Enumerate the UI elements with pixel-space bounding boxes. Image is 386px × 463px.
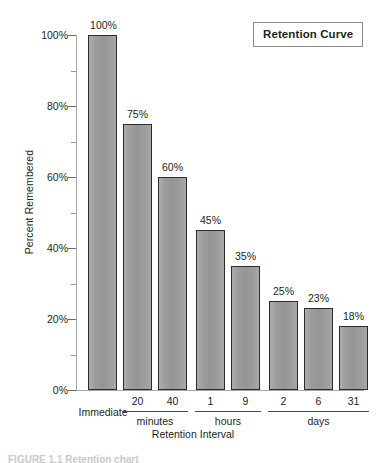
- bar-value-label-immediate: 100%: [74, 20, 133, 31]
- x-axis-line: [76, 390, 364, 391]
- bar-value-label-40-minutes: 60%: [147, 162, 198, 173]
- y-axis-line: [76, 35, 77, 390]
- y-ticklabel-40: 40%: [8, 243, 68, 254]
- bar-31-days: [339, 326, 368, 390]
- y-tick-80: [68, 106, 76, 107]
- bar-2-days: [269, 301, 298, 390]
- y-tick-40: [68, 248, 76, 249]
- bar-value-label-9-hours: 35%: [220, 251, 271, 262]
- chart-title-box: Retention Curve: [253, 22, 363, 47]
- bar-value-label-1-hour: 45%: [185, 215, 236, 226]
- y-minor-tick-50: [71, 213, 76, 214]
- group-label-minutes: minutes: [122, 416, 188, 427]
- bar-9-hours: [231, 266, 260, 390]
- y-minor-tick-10: [71, 355, 76, 356]
- y-ticklabel-60: 60%: [8, 172, 68, 183]
- bar-value-label-31-days: 18%: [328, 311, 379, 322]
- y-tick-20: [68, 319, 76, 320]
- bar-value-label-20-minutes: 75%: [112, 109, 163, 120]
- x-ticklabel-40: 40: [151, 396, 194, 407]
- y-ticklabel-100: 100%: [8, 30, 68, 41]
- y-ticklabel-0: 0%: [8, 385, 68, 396]
- y-tick-100: [68, 35, 76, 36]
- group-rule-minutes: [122, 411, 188, 412]
- group-rule-days: [268, 411, 369, 412]
- bar-value-label-6-days: 23%: [293, 293, 344, 304]
- y-minor-tick-70: [71, 142, 76, 143]
- y-ticklabel-20: 20%: [8, 314, 68, 325]
- x-ticklabel-9: 9: [224, 396, 267, 407]
- y-ticklabel-80: 80%: [8, 101, 68, 112]
- bar-immediate: [88, 35, 117, 390]
- y-tick-60: [68, 177, 76, 178]
- y-minor-tick-30: [71, 284, 76, 285]
- plot-area: 100% 80% 60% 40% 20% 0% 100% 75% 60% 45%…: [76, 30, 364, 390]
- y-minor-tick-90: [71, 71, 76, 72]
- bar-40-minutes: [158, 177, 187, 390]
- group-label-hours: hours: [195, 416, 261, 427]
- x-ticklabel-31: 31: [332, 396, 375, 407]
- figure-caption: FIGURE 1.1 Retention chart: [8, 454, 139, 463]
- group-rule-hours: [195, 411, 261, 412]
- group-label-days: days: [268, 416, 369, 427]
- x-axis-label: Retention Interval: [0, 428, 386, 440]
- y-axis-label: Percent Remembered: [23, 107, 35, 297]
- y-tick-0: [68, 390, 76, 391]
